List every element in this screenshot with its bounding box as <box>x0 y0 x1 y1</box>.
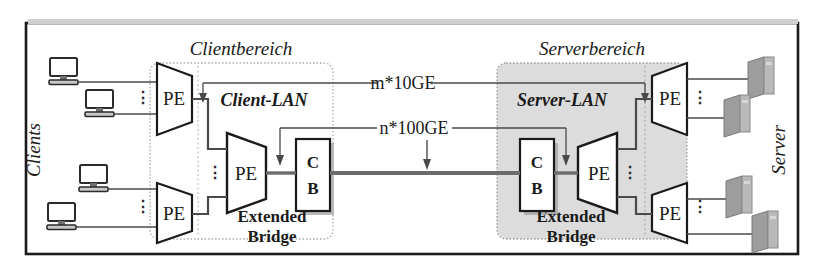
ellipsis-server-pe-top: ⋮ <box>692 89 708 106</box>
client-computer-4 <box>47 203 76 230</box>
pe-client-access-top-label: PE <box>163 88 185 109</box>
client-computer-3 <box>79 165 108 192</box>
pe-client-aggregation-label: PE <box>235 163 257 184</box>
pe-client-access-top[interactable]: PE <box>157 63 192 135</box>
pe-server-access-top[interactable]: PE <box>652 63 687 135</box>
client-computer-2 <box>85 90 114 117</box>
bridge-label-server-line2: Bridge <box>546 227 596 246</box>
pe-client-aggregation[interactable]: PE <box>227 133 266 213</box>
server-tower-4 <box>752 211 778 253</box>
label-100ge: n*100GE <box>380 118 449 138</box>
pe-client-access-bottom-label: PE <box>163 203 185 224</box>
cb-server-label-bottom: B <box>531 179 542 198</box>
pe-server-access-bottom-label: PE <box>659 203 681 224</box>
frame-top-highlight <box>28 19 798 24</box>
lan-label-client: Client-LAN <box>220 90 308 110</box>
side-label-server: Server <box>768 125 789 175</box>
server-tower-3 <box>726 176 752 218</box>
lan-label-server: Server-LAN <box>517 90 608 110</box>
server-tower-1 <box>748 57 774 99</box>
network-diagram-svg: ⋮ ⋮ PE PE PE ⋮ C B C B PE ⋮ <box>0 0 823 273</box>
pe-server-access-top-label: PE <box>659 88 681 109</box>
bridge-label-server-line1: Extended <box>537 207 607 226</box>
server-tower-2 <box>724 95 750 137</box>
diagram-canvas: ⋮ ⋮ PE PE PE ⋮ C B C B PE ⋮ <box>0 0 823 273</box>
ellipsis-server-pe-bottom: ⋮ <box>692 198 708 215</box>
pe-server-aggregation-label: PE <box>588 163 610 184</box>
label-10ge: m*10GE <box>371 73 436 93</box>
cb-client[interactable]: C B <box>296 139 334 215</box>
cb-server[interactable]: C B <box>520 139 558 215</box>
side-label-clients: Clients <box>23 123 44 177</box>
cb-client-label-bottom: B <box>307 179 318 198</box>
bridge-label-client-line1: Extended <box>238 207 308 226</box>
ellipsis-client-pe-top: ⋮ <box>135 89 151 106</box>
region-title-client: Clientbereich <box>190 38 293 59</box>
ellipsis-server-aggregation: ⋮ <box>622 164 638 181</box>
ellipsis-client-pe-bottom: ⋮ <box>135 198 151 215</box>
bridge-label-client-line2: Bridge <box>247 227 297 246</box>
client-computer-1 <box>49 58 78 85</box>
pe-server-aggregation[interactable]: PE <box>578 133 617 213</box>
cb-server-label-top: C <box>531 153 543 172</box>
ellipsis-client-aggregation: ⋮ <box>207 164 223 181</box>
cb-client-label-top: C <box>307 153 319 172</box>
region-title-server: Serverbereich <box>539 38 645 59</box>
